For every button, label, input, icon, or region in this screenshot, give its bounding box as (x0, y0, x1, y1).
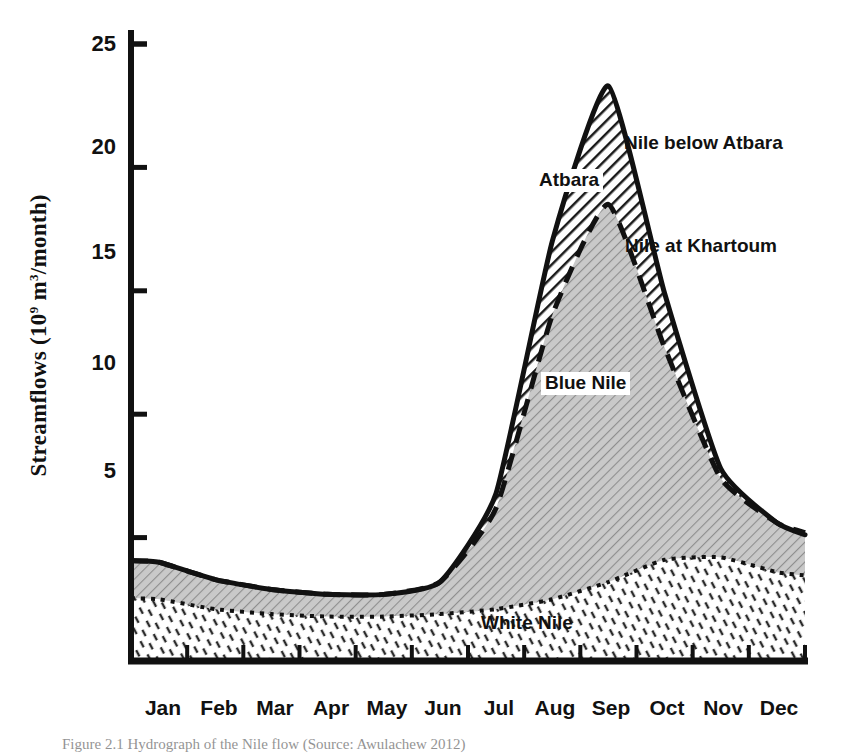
nile-hydrograph-figure: Streamflows (109 m3/month) 25 20 15 10 5 (0, 0, 848, 755)
y-axis-title-mid: m (26, 281, 51, 307)
figure-caption: Figure 2.1 Hydrograph of the Nile flow (… (62, 736, 466, 753)
x-tick-label-sep: Sep (582, 696, 640, 720)
y-tick-label-15: 15 (66, 239, 116, 265)
x-tick-label-nov: Nov (694, 696, 752, 720)
annotation-nile-at-khartoum: Nile at Khartoum (625, 236, 777, 256)
x-tick-label-feb: Feb (190, 696, 248, 720)
y-tick-label-25: 25 (66, 31, 116, 57)
annotation-nile-below-atbara: Nile below Atbara (624, 133, 783, 153)
x-tick-label-jun: Jun (414, 696, 472, 720)
y-tick-label-10: 10 (66, 350, 116, 376)
y-tick-label-5: 5 (66, 458, 116, 484)
annotation-atbara: Atbara (535, 169, 603, 192)
series-layer (131, 86, 805, 661)
annotation-blue-nile: Blue Nile (541, 372, 630, 395)
x-tick-label-aug: Aug (526, 696, 584, 720)
x-tick-label-jul: Jul (470, 696, 528, 720)
y-axis-title-exp1: 9 (26, 307, 41, 314)
x-tick-label-may: May (358, 696, 416, 720)
y-axis-title: Streamflows (109 m3/month) (26, 100, 53, 570)
x-tick-label-oct: Oct (638, 696, 696, 720)
x-tick-label-dec: Dec (750, 696, 808, 720)
plot-area (0, 0, 848, 755)
x-tick-label-jan: Jan (134, 696, 192, 720)
x-tick-label-mar: Mar (246, 696, 304, 720)
annotation-white-nile: White Nile (481, 613, 573, 633)
y-tick-label-20: 20 (66, 134, 116, 160)
y-axis-title-exp2: 3 (26, 274, 41, 281)
x-tick-label-apr: Apr (302, 696, 360, 720)
y-axis-title-main: Streamflows (10 (26, 313, 51, 476)
y-axis-title-tail: /month) (26, 194, 51, 274)
